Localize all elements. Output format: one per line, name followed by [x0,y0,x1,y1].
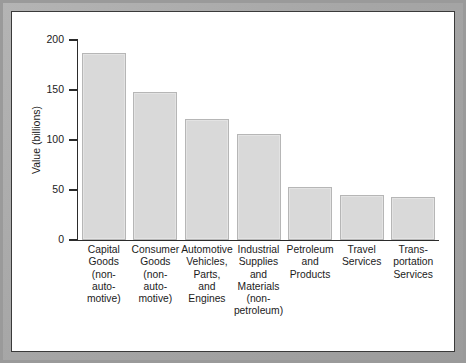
y-axis-tick [69,239,78,240]
y-axis-tick-label: 50 [24,184,64,195]
y-axis-tick-label: 150 [24,84,64,95]
y-axis-tick-label: 0 [24,234,64,245]
figure-frame: Value (billions) 050100150200 Capital Go… [0,0,466,363]
x-axis-category-label: Automotive Vehicles, Parts, and Engines [179,244,235,305]
bar [185,119,229,240]
x-axis-category-label: Travel Services [334,244,390,269]
bar [82,53,126,240]
y-axis-tick-label: 100 [24,134,64,145]
x-axis-category-label: Consumer Goods (non- auto- motive) [128,244,184,305]
y-axis-tick [69,89,78,90]
y-axis-tick-label: 200 [24,34,64,45]
bar [340,195,384,240]
x-axis-category-label: Capital Goods (non- auto- motive) [76,244,132,305]
x-axis-category-label: Industrial Supplies and Materials (non- … [231,244,287,318]
bar [288,187,332,240]
x-axis-line [77,240,439,241]
x-axis-category-label: Trans- portation Services [385,244,441,281]
chart-canvas: Value (billions) 050100150200 Capital Go… [12,12,454,351]
y-axis-tick [69,139,78,140]
y-axis-tick [69,39,78,40]
bar [391,197,435,240]
x-axis-category-label: Petroleum and Products [282,244,338,281]
bar [237,134,281,240]
bar-chart: Value (billions) 050100150200 Capital Go… [12,12,454,351]
bar [133,92,177,240]
y-axis-tick [69,189,78,190]
